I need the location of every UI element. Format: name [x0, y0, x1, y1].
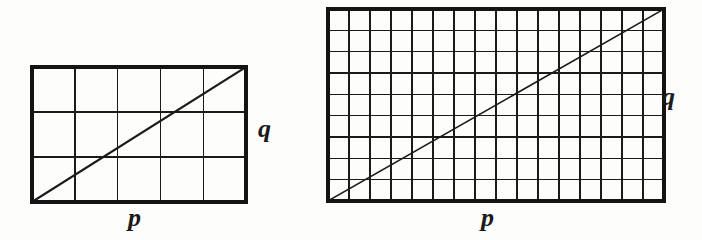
diagonal-line	[32, 67, 246, 202]
fine-grid-svg	[324, 5, 668, 205]
fine-grid-horizontal-axis-label: p	[481, 205, 494, 231]
coarse-grid-svg	[28, 63, 250, 206]
fine-grid-vertical-axis-label: q	[662, 84, 675, 110]
figure-container: p q p q	[0, 0, 702, 240]
coarse-grid-vertical-axis-label: q	[258, 116, 271, 142]
coarse-grid-panel	[28, 63, 250, 206]
coarse-grid-horizontal-axis-label: p	[128, 205, 141, 231]
fine-grid-panel	[324, 5, 668, 205]
